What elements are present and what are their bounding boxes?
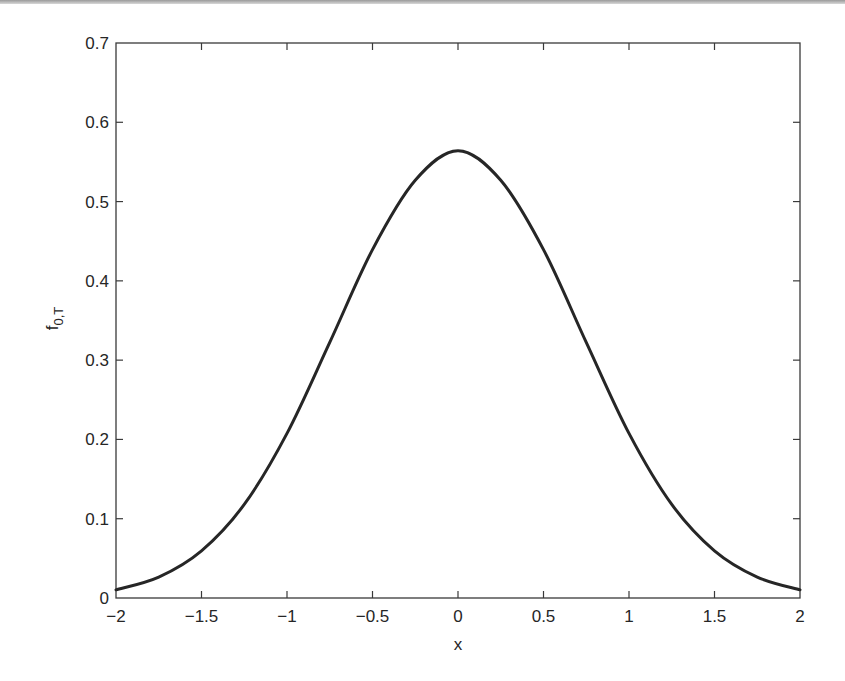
y-axis-label: f0,T — [43, 307, 66, 331]
y-tick-label: 0 — [100, 589, 109, 608]
x-tick-label: −0.5 — [356, 607, 390, 626]
series-line — [116, 151, 800, 590]
x-axis-label: x — [454, 635, 463, 654]
y-tick-label: 0.2 — [85, 430, 109, 449]
x-tick-label: −2 — [106, 607, 125, 626]
x-tick-label: 2 — [795, 607, 804, 626]
x-tick-label: 1.5 — [703, 607, 727, 626]
y-tick-label: 0.4 — [85, 272, 109, 291]
y-tick-label: 0.5 — [85, 193, 109, 212]
x-tick-label: 1 — [624, 607, 633, 626]
x-tick-label: −1.5 — [185, 607, 219, 626]
axes-box — [116, 43, 800, 598]
y-tick-label: 0.1 — [85, 510, 109, 529]
y-tick-label: 0.7 — [85, 34, 109, 53]
chart: −2−1.5−1−0.500.511.52 00.10.20.30.40.50.… — [0, 0, 845, 681]
y-tick-label: 0.3 — [85, 351, 109, 370]
x-tick-label: 0.5 — [532, 607, 556, 626]
x-tick-label: 0 — [453, 607, 462, 626]
plot-area — [116, 43, 800, 598]
y-tick-label: 0.6 — [85, 113, 109, 132]
x-tick-label: −1 — [277, 607, 296, 626]
y-axis-label-subscript: 0,T — [51, 307, 66, 326]
y-ticks: 00.10.20.30.40.50.60.7 — [85, 34, 800, 608]
